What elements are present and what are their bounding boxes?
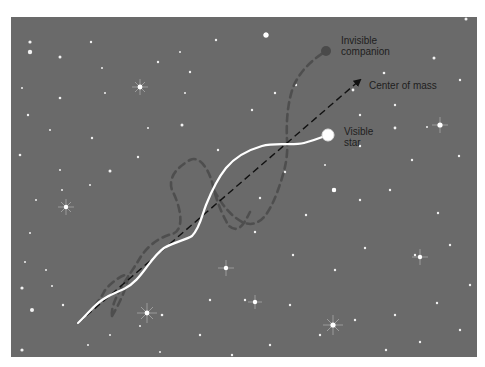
background-stars — [19, 18, 471, 357]
visible-star — [322, 129, 334, 141]
diagram-canvas — [11, 17, 477, 357]
visible-star-label: Visible star — [344, 126, 373, 148]
starfield-panel: Invisible companion Center of mass Visib… — [11, 17, 477, 357]
visible-star-label-line1: Visible — [344, 126, 373, 137]
invisible-companion-label-line1: Invisible — [341, 35, 390, 46]
center-of-mass-label-text: Center of mass — [369, 80, 437, 91]
invisible-companion-label: Invisible companion — [341, 35, 390, 57]
visible-star-label-line2: star — [344, 137, 373, 148]
companion-orbit-path — [78, 51, 326, 323]
invisible-companion — [321, 46, 331, 56]
invisible-companion-label-line2: companion — [341, 46, 390, 57]
center-of-mass-arrow — [78, 80, 360, 323]
center-of-mass-label: Center of mass — [369, 80, 437, 91]
